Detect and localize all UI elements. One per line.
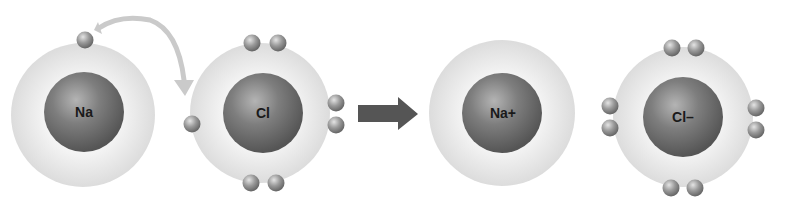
- chloride-ion: Cl–: [602, 40, 765, 197]
- electron: [270, 35, 287, 52]
- electron: [688, 40, 705, 57]
- electron: [328, 95, 345, 112]
- electron: [687, 180, 704, 197]
- electron: [328, 117, 345, 134]
- ion-label: Na+: [490, 105, 516, 121]
- electron: [244, 35, 261, 52]
- electron: [664, 40, 681, 57]
- electron: [602, 120, 619, 137]
- electron: [268, 175, 285, 192]
- electron: [77, 32, 94, 49]
- ionic-bond-diagram: Na Cl Na+ Cl–: [0, 0, 787, 211]
- electron: [243, 175, 260, 192]
- ion-label: Cl–: [672, 109, 694, 125]
- atom-label: Cl: [256, 105, 270, 121]
- electron: [602, 98, 619, 115]
- electron: [748, 122, 765, 139]
- electron: [184, 116, 201, 133]
- electron: [663, 180, 680, 197]
- chlorine-atom: Cl: [184, 35, 345, 192]
- sodium-atom: Na: [11, 32, 155, 188]
- atom-label: Na: [75, 104, 93, 120]
- electron: [748, 100, 765, 117]
- reaction-arrow-icon: [358, 97, 418, 130]
- sodium-ion: Na+: [429, 40, 575, 186]
